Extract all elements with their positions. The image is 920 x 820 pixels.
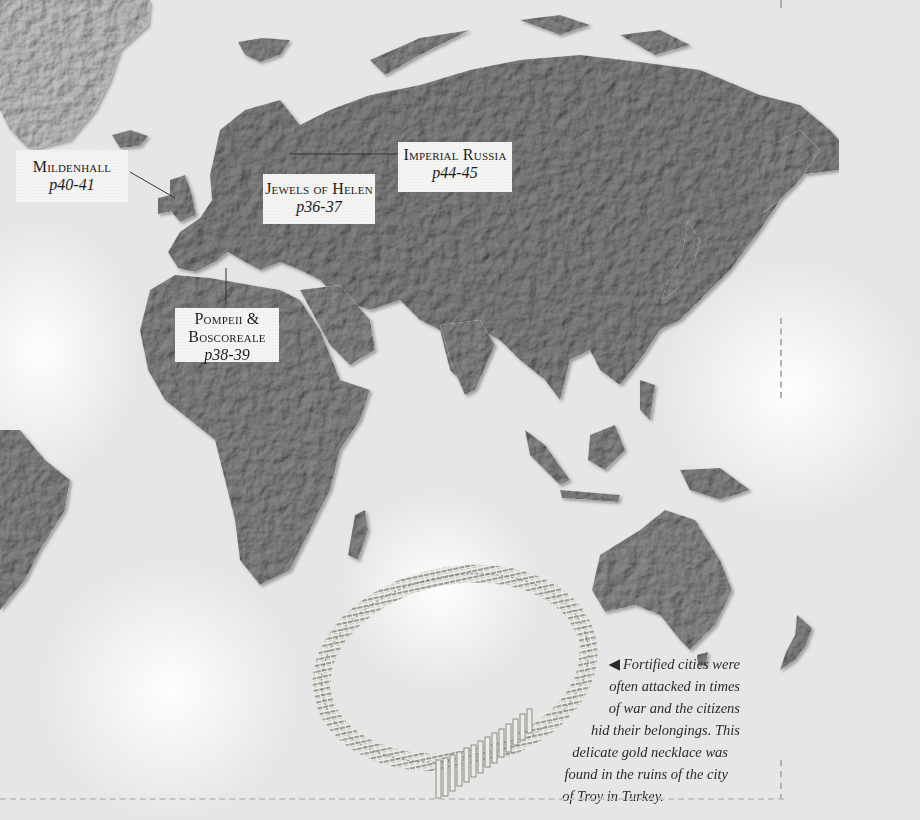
caption-line: ◀Fortified cities were	[540, 653, 740, 675]
caption-line: delicate gold necklace was	[540, 741, 728, 763]
label-title: Mildenhall	[16, 158, 128, 176]
page-edge-dashes	[780, 0, 782, 8]
pointer-arrow-icon: ◀	[608, 656, 620, 672]
label-pompeii-boscoreale[interactable]: Pompeii & Boscoreale p38-39	[175, 308, 279, 362]
label-title: Imperial Russia	[398, 146, 512, 164]
caption-line: often attacked in times	[540, 675, 740, 697]
label-page: p36-37	[263, 198, 375, 216]
label-page: p38-39	[175, 346, 279, 364]
label-imperial-russia[interactable]: Imperial Russia p44-45	[398, 142, 512, 192]
label-mildenhall[interactable]: Mildenhall p40-41	[16, 150, 128, 202]
page-bottom-dashes	[0, 798, 784, 800]
label-title-line2: Boscoreale	[175, 328, 279, 346]
necklace-caption: ◀Fortified cities were often attacked in…	[540, 653, 740, 807]
label-page: p44-45	[398, 164, 512, 182]
page-edge-dashes	[780, 760, 782, 800]
label-title-line1: Pompeii &	[175, 310, 279, 328]
label-jewels-of-helen[interactable]: Jewels of Helen p36-37	[263, 174, 375, 224]
caption-line: hid their belongings. This	[540, 719, 740, 741]
label-page: p40-41	[16, 176, 128, 194]
caption-line: of Troy in Turkey.	[540, 785, 664, 807]
caption-line: of war and the citizens	[540, 697, 740, 719]
label-title: Jewels of Helen	[263, 180, 375, 198]
page-edge-dashes	[780, 318, 782, 398]
caption-line: found in the ruins of the city	[540, 763, 728, 785]
